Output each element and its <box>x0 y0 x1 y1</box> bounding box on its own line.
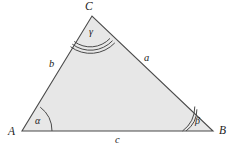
vertex-label-C: C <box>85 1 93 13</box>
side-label-c: c <box>115 135 120 146</box>
triangle-diagram-svg <box>0 0 233 150</box>
triangle-shape <box>22 16 213 131</box>
vertex-label-A: A <box>8 126 15 138</box>
angle-label-alpha: α <box>35 116 40 126</box>
angle-label-beta: β <box>195 116 200 126</box>
side-label-a: a <box>144 53 149 64</box>
angle-label-gamma: γ <box>89 27 93 37</box>
triangle-figure: A B C a b c α β γ <box>0 0 233 150</box>
side-label-b: b <box>49 59 54 70</box>
vertex-label-B: B <box>219 125 226 137</box>
